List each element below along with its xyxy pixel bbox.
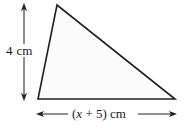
- height-label: 4 cm: [5, 44, 33, 57]
- base-unit: cm: [110, 106, 126, 121]
- triangle-diagram: 4 cm (x + 5) cm: [0, 0, 189, 129]
- base-label: (x + 5) cm: [70, 107, 128, 120]
- triangle-shape: [38, 5, 175, 99]
- height-unit: cm: [17, 43, 33, 58]
- base-operator: +: [85, 106, 92, 121]
